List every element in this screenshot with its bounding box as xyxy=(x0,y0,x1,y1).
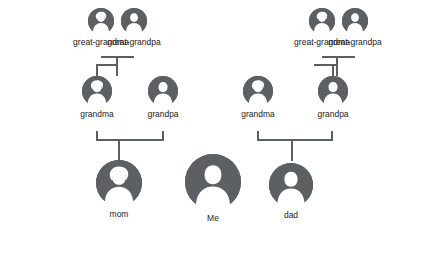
connector-maternal-left-riser xyxy=(96,131,98,141)
person-label-pgg-grandpa: great-grandpa xyxy=(328,37,381,47)
person-node-mom[interactable]: mom xyxy=(96,160,142,206)
person-node-pgg-grandma[interactable]: great-grandma xyxy=(309,8,335,34)
connector-maternal-right-riser xyxy=(162,131,164,141)
person-node-dad[interactable]: dad xyxy=(269,163,313,207)
connector-pgg-couple-drop xyxy=(336,56,338,76)
connector-mgg-bracket xyxy=(96,64,118,66)
avatar-mgg-grandpa xyxy=(121,8,147,34)
avatar-m-grandpa xyxy=(148,76,178,106)
person-node-m-grandpa[interactable]: grandpa xyxy=(148,76,178,106)
avatar-dad xyxy=(269,163,313,207)
person-node-pgg-grandpa[interactable]: great-grandpa xyxy=(342,8,368,34)
avatar-mgg-grandma xyxy=(88,8,114,34)
person-label-p-grandma: grandma xyxy=(241,109,275,119)
avatar-pgg-grandpa xyxy=(342,8,368,34)
person-node-mgg-grandma[interactable]: great-grandma xyxy=(88,8,114,34)
person-label-mgg-grandpa: great-grandpa xyxy=(107,37,160,47)
avatar-m-grandma xyxy=(82,76,112,106)
person-label-dad: dad xyxy=(284,210,298,220)
avatar-me xyxy=(185,154,241,210)
person-label-p-grandpa: grandpa xyxy=(317,109,348,119)
avatar-p-grandpa xyxy=(318,76,348,106)
connector-maternal-drop xyxy=(118,139,120,161)
connector-paternal-couple-h xyxy=(257,139,332,141)
person-label-me: Me xyxy=(207,213,219,223)
avatar-pgg-grandma xyxy=(309,8,335,34)
connector-paternal-drop xyxy=(291,139,293,161)
connector-mgg-couple-drop xyxy=(116,56,118,76)
connector-paternal-left-riser xyxy=(257,131,259,141)
family-tree-diagram: great-grandmagreat-grandpagreat-grandmag… xyxy=(0,0,427,262)
person-node-p-grandpa[interactable]: grandpa xyxy=(318,76,348,106)
person-node-mgg-grandpa[interactable]: great-grandpa xyxy=(121,8,147,34)
connector-paternal-right-riser xyxy=(331,131,333,141)
connector-maternal-couple-h xyxy=(96,139,163,141)
person-node-me[interactable]: Me xyxy=(185,154,241,210)
avatar-mom xyxy=(96,160,142,206)
connector-pgg-bracket xyxy=(314,64,336,66)
person-node-m-grandma[interactable]: grandma xyxy=(82,76,112,106)
avatar-p-grandma xyxy=(243,76,273,106)
person-label-m-grandma: grandma xyxy=(80,109,114,119)
person-node-p-grandma[interactable]: grandma xyxy=(243,76,273,106)
connector-pgg-couple-h xyxy=(322,56,355,58)
person-label-m-grandpa: grandpa xyxy=(147,109,178,119)
person-label-mom: mom xyxy=(110,209,129,219)
